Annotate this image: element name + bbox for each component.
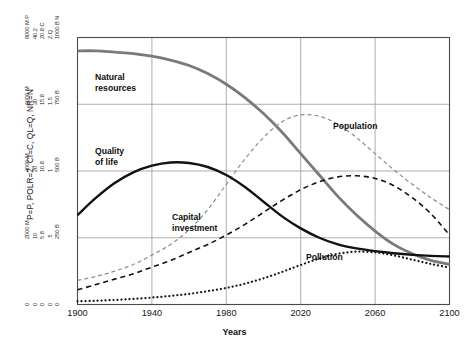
- x-tick-label: 1980: [201, 308, 251, 318]
- series-line-pollution: [78, 252, 450, 302]
- series-label-line: Capital: [172, 212, 217, 223]
- series-label-line: of life: [95, 157, 124, 168]
- x-tick-label: 2100: [425, 308, 469, 318]
- series-label-natural_resources: Naturalresources: [95, 72, 136, 93]
- y-tick-label: 8000 M P: [24, 15, 30, 39]
- series-label-capital_investment: Capitalinvestment: [172, 212, 217, 233]
- series-label-pollution: Pollution: [306, 252, 343, 263]
- y-tick-label: 0: [24, 302, 30, 305]
- y-tick-label: 0: [39, 302, 45, 305]
- y-tick-label: 4000 M: [24, 153, 30, 172]
- series-label-quality_of_life: Qualityof life: [95, 146, 124, 167]
- chart-figure: P=P, POLR=2, CI=C, QL=Q, NR=N Years 1900…: [0, 0, 469, 346]
- y-tick-label: 30: [32, 99, 38, 105]
- y-tick-label: 5.8: [39, 231, 45, 239]
- y-tick-label: 10.8: [39, 161, 45, 172]
- y-tick-label: 20.8 C: [39, 22, 45, 38]
- x-axis-title: Years: [0, 327, 469, 337]
- series-label-line: Pollution: [306, 252, 343, 263]
- y-tick-label: 1000 B N: [54, 15, 60, 38]
- y-tick-label: .5: [47, 234, 53, 239]
- y-tick-label: 0: [47, 302, 53, 305]
- y-tick-label: 0: [32, 302, 38, 305]
- series-label-population: Population: [333, 121, 377, 132]
- series-label-line: Population: [333, 121, 377, 132]
- y-tick-label: 2000 M: [24, 220, 30, 239]
- series-label-line: Natural: [95, 72, 136, 83]
- y-tick-label: 500 B: [54, 157, 60, 172]
- y-tick-label: 40.2: [32, 28, 38, 39]
- x-tick-label: 2020: [276, 308, 326, 318]
- series-line-quality_of_life: [78, 162, 450, 256]
- y-tick-label: 0: [54, 302, 60, 305]
- x-tick-label: 1900: [53, 308, 103, 318]
- chart-plot-area: [0, 0, 469, 346]
- y-tick-label: 1.5: [47, 97, 53, 105]
- series-label-line: investment: [172, 223, 217, 234]
- x-tick-label: 1940: [127, 308, 177, 318]
- x-tick-label: 2060: [350, 308, 400, 318]
- series-line-population: [78, 115, 450, 281]
- y-tick-label: 15.8: [39, 94, 45, 105]
- y-tick-label: 1: [47, 169, 53, 172]
- series-label-line: Quality: [95, 146, 124, 157]
- y-tick-label: 750 B: [54, 91, 60, 106]
- y-tick-label: 250 B: [54, 224, 60, 239]
- series-line-capital_investment: [78, 176, 450, 290]
- y-tick-label: 6000 M: [24, 87, 30, 106]
- y-tick-label: 10: [32, 233, 38, 239]
- y-tick-label: 20: [32, 166, 38, 172]
- series-label-line: resources: [95, 83, 136, 94]
- y-tick-label: 2.Q: [47, 29, 53, 38]
